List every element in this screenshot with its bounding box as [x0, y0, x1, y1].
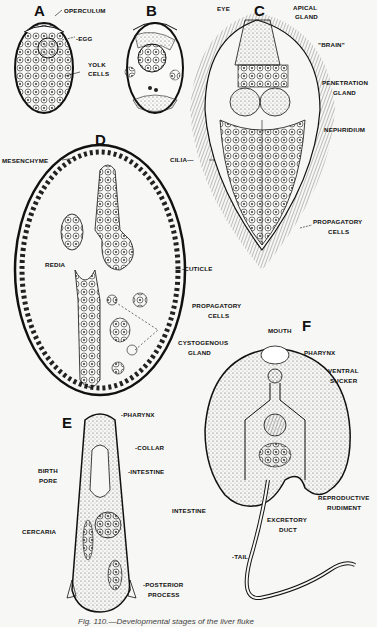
label-ventral-2: SUCKER — [330, 377, 357, 384]
panel-letter-b: B — [146, 3, 157, 18]
label-cystogenous-2: GLAND — [188, 349, 211, 356]
label-excretory-1: EXCRETORY — [267, 516, 307, 523]
label-ventral-1: VENTRAL — [328, 367, 359, 374]
label-mesenchyme: MESENCHYME — [2, 157, 48, 164]
panel-letter-e: E — [62, 415, 72, 430]
figure-drawing — [0, 0, 377, 627]
label-yolk-2: CELLS — [88, 70, 109, 77]
label-egg: -EGG — [76, 35, 93, 42]
panel-letter-f: F — [302, 318, 311, 333]
label-posterior-1: -POSTERIOR — [143, 581, 184, 588]
label-yolk-1: YOLK — [88, 61, 106, 68]
label-propagatory-d-2: CELLS — [208, 312, 229, 319]
label-apical-1: APICAL — [293, 4, 317, 11]
panel-e-redia — [67, 414, 136, 612]
panel-letter-c: C — [254, 3, 265, 18]
label-propagatory-c-2: CELLS — [328, 228, 349, 235]
label-propagatory-d-1: PROPAGATORY — [192, 302, 241, 309]
panel-b-egg — [125, 23, 183, 114]
label-nephridium: NEPHRIDIUM — [324, 126, 365, 133]
label-cilia: CILIA— — [170, 156, 194, 163]
label-mouth: MOUTH — [268, 327, 292, 334]
figure-caption: Fig. 110.—Developmental stages of the li… — [78, 617, 254, 626]
label-pharynx-f: PHARYNX — [304, 349, 335, 356]
label-reproductive-2: RUDIMENT — [327, 504, 361, 511]
label-propagatory-c-1: PROPAGATORY — [313, 218, 362, 225]
label-excretory-2: DUCT — [279, 526, 297, 533]
label-reproductive-1: REPRODUCTIVE — [318, 494, 370, 501]
label-cystogenous-1: CYSTOGENOUS — [178, 339, 228, 346]
label-operculum: OPERCULUM — [64, 7, 106, 14]
label-brain: "BRAIN" — [318, 41, 345, 48]
label-cercaria: CERCARIA — [22, 528, 56, 535]
label-posterior-2: PROCESS — [148, 591, 180, 598]
label-cuticle: -CUTICLE — [182, 265, 212, 272]
label-birth-pore-2: PORE — [39, 477, 57, 484]
panel-d-sporocyst — [15, 145, 185, 395]
label-intestine-e: -INTESTINE — [128, 468, 164, 475]
label-birth-pore-1: BIRTH — [38, 467, 58, 474]
panel-c-miracidium — [190, 12, 335, 270]
label-penetration-1: PENETRATION — [322, 79, 368, 86]
label-pharynx-e: -PHARYNX — [121, 411, 155, 418]
panel-a-egg — [15, 10, 80, 113]
label-tail: -TAIL — [232, 553, 248, 560]
label-apical-2: GLAND — [295, 13, 318, 20]
panel-letter-d: D — [95, 132, 106, 147]
label-eye: EYE — [217, 5, 230, 12]
label-collar: -COLLAR — [135, 444, 164, 451]
label-intestine-f: INTESTINE — [172, 507, 206, 514]
label-penetration-2: GLAND — [333, 89, 356, 96]
panel-letter-a: A — [34, 3, 45, 18]
label-redia: REDIA — [45, 261, 65, 268]
